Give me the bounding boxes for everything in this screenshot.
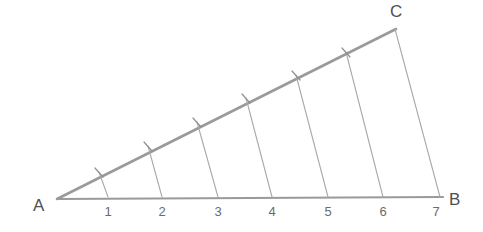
vertex-label-A: A	[33, 196, 45, 215]
geometry-diagram-canvas: A B C 1 2 3 4 5 6 7	[0, 0, 483, 232]
division-label-1: 1	[104, 204, 111, 219]
division-label-6: 6	[379, 204, 386, 219]
transversal-line-5	[296, 75, 328, 197]
segment-AB-baseline	[57, 197, 443, 199]
transversal-line-2	[148, 146, 162, 197]
transversal-line-6	[346, 52, 383, 197]
tick-mark-1-icon	[95, 168, 103, 177]
division-label-4: 4	[268, 204, 275, 219]
vertex-label-B: B	[449, 190, 460, 209]
division-label-2: 2	[158, 204, 165, 219]
segment-AC-hypotenuse	[57, 29, 396, 199]
tick-mark-4-icon	[242, 94, 250, 103]
tick-mark-2-icon	[144, 142, 152, 151]
vertex-label-C: C	[390, 2, 402, 21]
division-label-7: 7	[432, 204, 439, 219]
transversal-line-3	[197, 122, 218, 197]
tick-mark-3-icon	[193, 118, 201, 127]
division-label-3: 3	[214, 204, 221, 219]
division-label-5: 5	[324, 204, 331, 219]
segment-CB-closing-side	[395, 29, 440, 197]
transversal-line-4	[246, 98, 272, 197]
geometry-svg: A B C 1 2 3 4 5 6 7	[0, 0, 483, 232]
